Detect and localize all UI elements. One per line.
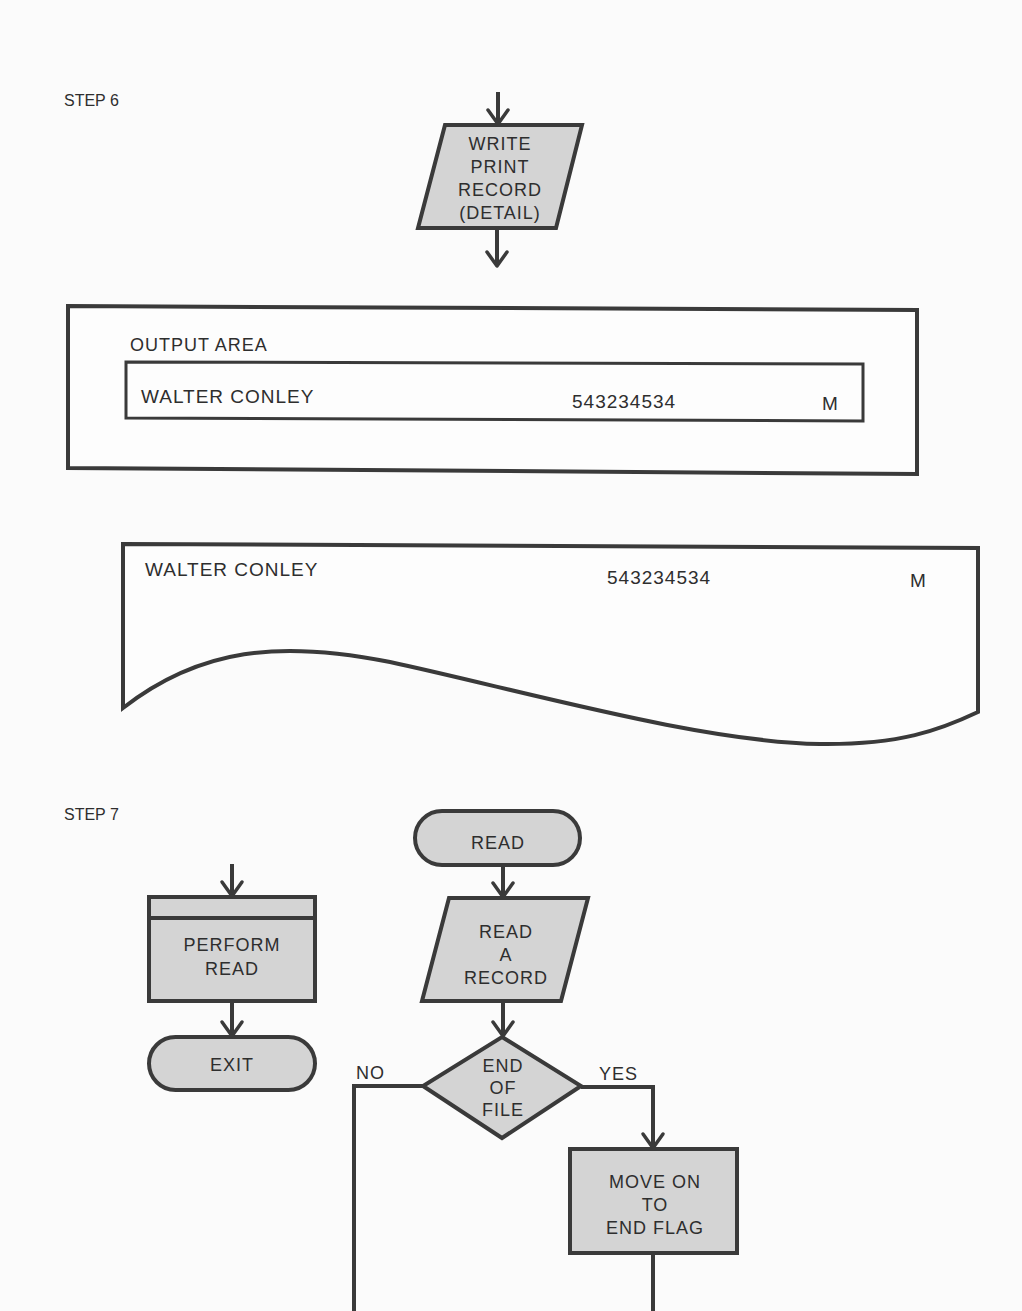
end-of-file-decision: END OF FILE — [423, 1037, 581, 1138]
decision-line-2: OF — [490, 1078, 517, 1098]
write-line-1: WRITE — [469, 134, 532, 154]
perform-line-2: READ — [205, 959, 259, 979]
move-line-1: MOVE ON — [609, 1172, 701, 1192]
flowchart-canvas: STEP 6 WRITE PRINT RECORD (DETAIL) OUTPU… — [0, 0, 1022, 1311]
read-terminal-label: READ — [471, 833, 525, 853]
decision-line-3: FILE — [482, 1100, 524, 1120]
document-code: M — [910, 570, 927, 591]
exit-terminal: EXIT — [149, 1037, 315, 1090]
move-line-2: TO — [642, 1195, 669, 1215]
yes-label: YES — [599, 1064, 638, 1084]
write-line-4: (DETAIL) — [459, 203, 541, 223]
write-line-3: RECORD — [458, 180, 542, 200]
read-record-line-2: A — [499, 945, 512, 965]
step6-label: STEP 6 — [64, 92, 119, 109]
exit-label: EXIT — [210, 1055, 254, 1075]
read-a-record-block: READ A RECORD — [422, 898, 588, 1001]
arrow-out-of-write — [487, 228, 507, 266]
document-name: WALTER CONLEY — [145, 559, 318, 580]
step7-label: STEP 7 — [64, 806, 119, 823]
perform-line-1: PERFORM — [184, 935, 281, 955]
output-area-title: OUTPUT AREA — [130, 335, 268, 355]
arrow-read-to-record — [493, 865, 513, 897]
output-area-box: OUTPUT AREA WALTER CONLEY 543234534 M — [68, 306, 917, 474]
write-print-record-block: WRITE PRINT RECORD (DETAIL) — [418, 125, 582, 228]
no-label: NO — [356, 1063, 385, 1083]
write-line-2: PRINT — [471, 157, 530, 177]
no-branch: NO — [354, 1063, 423, 1311]
decision-line-1: END — [482, 1056, 523, 1076]
move-to-end-flag-block: MOVE ON TO END FLAG — [570, 1149, 737, 1253]
read-terminal: READ — [415, 811, 580, 865]
arrow-into-write — [488, 92, 508, 124]
arrow-into-perform — [222, 864, 242, 896]
printed-document: WALTER CONLEY 543234534 M — [123, 544, 978, 744]
read-record-line-3: RECORD — [464, 968, 548, 988]
read-record-line-1: READ — [479, 922, 533, 942]
output-record-name: WALTER CONLEY — [141, 386, 314, 407]
arrow-record-to-decision — [493, 1001, 513, 1036]
output-record-number: 543234534 — [572, 391, 676, 412]
arrow-perform-to-exit — [222, 1001, 242, 1036]
output-record-code: M — [822, 393, 839, 414]
perform-read-block: PERFORM READ — [149, 897, 315, 1001]
yes-branch: YES — [581, 1064, 663, 1148]
move-line-3: END FLAG — [606, 1218, 704, 1238]
document-number: 543234534 — [607, 567, 711, 588]
